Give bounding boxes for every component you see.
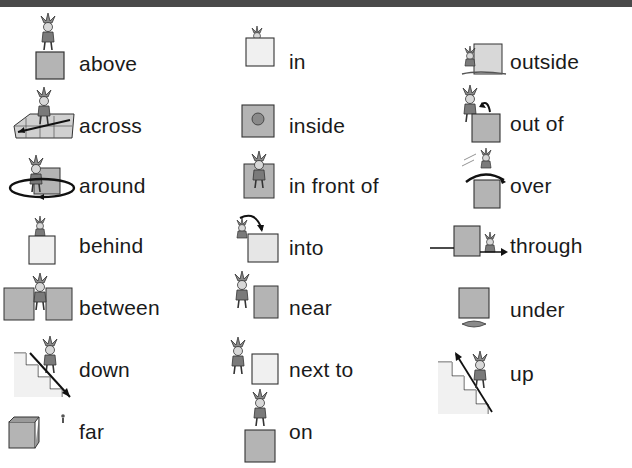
word-label: through bbox=[510, 234, 583, 258]
entry-around: around bbox=[0, 152, 200, 208]
word-label: on bbox=[289, 420, 313, 444]
word-label: above bbox=[79, 52, 137, 76]
jester-in-box-icon bbox=[243, 26, 277, 70]
jester-into-box-icon bbox=[226, 212, 282, 264]
entry-inside: inside bbox=[210, 100, 410, 150]
jester-across-grid-icon bbox=[10, 82, 76, 142]
jester-near-box-icon bbox=[224, 266, 280, 322]
entry-through: through bbox=[410, 222, 632, 272]
entry-across: across bbox=[0, 80, 200, 142]
word-label: over bbox=[510, 174, 552, 198]
jester-above-box-icon bbox=[28, 12, 68, 80]
word-label: behind bbox=[79, 234, 143, 258]
entry-next-to: next to bbox=[210, 332, 410, 394]
entry-between: between bbox=[0, 268, 200, 326]
entry-outside: outside bbox=[410, 40, 632, 90]
entry-out-of: out of bbox=[410, 84, 632, 146]
word-label: up bbox=[510, 362, 534, 386]
word-label: under bbox=[510, 298, 565, 322]
jester-around-box-icon bbox=[4, 154, 76, 206]
word-label: near bbox=[289, 296, 332, 320]
jester-behind-box-icon bbox=[24, 214, 60, 270]
entry-behind: behind bbox=[0, 212, 200, 270]
word-label: inside bbox=[289, 114, 345, 138]
jester-inside-box-icon bbox=[240, 102, 276, 140]
word-label: in bbox=[289, 50, 306, 74]
entry-over: over bbox=[410, 146, 632, 208]
jester-up-stairs-icon bbox=[436, 344, 506, 424]
jester-out-of-box-icon bbox=[456, 84, 506, 146]
word-label: next to bbox=[289, 358, 353, 382]
word-label: in front of bbox=[289, 174, 379, 198]
jester-through-box-icon bbox=[428, 222, 510, 266]
jester-far-from-box-icon bbox=[6, 412, 76, 464]
entry-up: up bbox=[410, 344, 632, 424]
word-label: across bbox=[79, 114, 142, 138]
word-label: far bbox=[79, 420, 104, 444]
entry-far: far bbox=[0, 412, 200, 468]
header-bar bbox=[0, 0, 632, 7]
entry-into: into bbox=[210, 212, 410, 268]
entry-under: under bbox=[410, 284, 632, 340]
word-label: out of bbox=[510, 112, 564, 136]
word-label: outside bbox=[510, 50, 579, 74]
entry-above: above bbox=[0, 8, 200, 78]
jester-between-boxes-icon bbox=[2, 268, 74, 324]
word-label: around bbox=[79, 174, 146, 198]
entry-on: on bbox=[210, 386, 410, 468]
entry-in: in bbox=[210, 26, 410, 76]
jester-outside-box-icon bbox=[458, 40, 508, 80]
jester-under-box-icon bbox=[456, 284, 492, 334]
jester-next-to-box-icon bbox=[224, 332, 280, 392]
word-label: between bbox=[79, 296, 160, 320]
jester-down-stairs-icon bbox=[12, 335, 76, 401]
word-label: down bbox=[79, 358, 130, 382]
jester-in-front-of-box-icon bbox=[241, 150, 277, 202]
entry-near: near bbox=[210, 266, 410, 324]
entry-down: down bbox=[0, 335, 200, 405]
word-label: into bbox=[289, 236, 324, 260]
jester-over-box-icon bbox=[460, 146, 512, 208]
jester-on-box-icon bbox=[242, 388, 278, 466]
entry-in-front-of: in front of bbox=[210, 150, 430, 206]
